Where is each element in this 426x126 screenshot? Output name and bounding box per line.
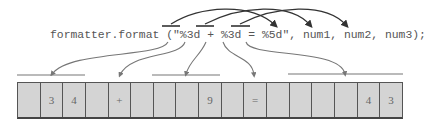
- output-cell: 9: [199, 83, 222, 117]
- output-cell: 3: [380, 83, 402, 117]
- output-cell: 4: [63, 83, 86, 117]
- argument-arrows: [171, 9, 346, 25]
- output-cell: [290, 83, 313, 117]
- output-cell: 3: [41, 83, 64, 117]
- arrow-spec1-to-num1: [171, 9, 275, 25]
- arrow-to-field-2: [186, 42, 206, 74]
- arrow-to-field-3: [246, 42, 345, 74]
- output-cell: [267, 83, 290, 117]
- field-brackets: [17, 74, 403, 75]
- field-arrows: [52, 42, 345, 75]
- arrow-to-field-1: [52, 42, 168, 74]
- output-cell: [131, 83, 154, 117]
- output-cell: [18, 83, 41, 117]
- output-cell: [312, 83, 335, 117]
- output-cell: [222, 83, 245, 117]
- arrow-to-equals: [223, 42, 254, 75]
- output-cell: +: [109, 83, 132, 117]
- output-cell: [176, 83, 199, 117]
- code-statement: formatter.format ("%3d + %3d = %5d", num…: [50, 29, 426, 41]
- arrow-to-plus: [120, 42, 185, 75]
- output-cells: 3 4 + 9 = 4 3: [17, 82, 403, 119]
- output-cell: [86, 83, 109, 117]
- output-cell: [154, 83, 177, 117]
- output-cell: 4: [358, 83, 381, 117]
- output-cell: [335, 83, 358, 117]
- output-cell: =: [244, 83, 267, 117]
- arrow-spec3-to-num3: [240, 9, 346, 25]
